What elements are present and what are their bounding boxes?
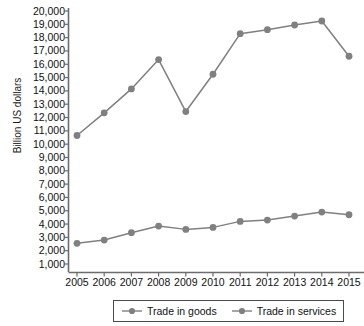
data-point[interactable] (182, 108, 189, 115)
legend-item-services[interactable]: Trade in services (231, 305, 337, 317)
series-line (77, 21, 349, 136)
legend-item-goods[interactable]: Trade in goods (121, 305, 217, 317)
data-series-group (74, 18, 353, 247)
data-point[interactable] (155, 56, 162, 63)
data-point[interactable] (237, 30, 244, 37)
data-point[interactable] (237, 218, 244, 225)
data-point[interactable] (182, 226, 189, 233)
data-point[interactable] (210, 224, 217, 231)
data-point[interactable] (128, 229, 135, 236)
data-point[interactable] (264, 26, 271, 33)
data-point[interactable] (346, 211, 353, 218)
data-point[interactable] (291, 22, 298, 29)
chart-legend: Trade in goods Trade in services (113, 300, 344, 322)
data-point[interactable] (128, 85, 135, 92)
data-point[interactable] (264, 217, 271, 224)
data-point[interactable] (318, 209, 325, 216)
legend-marker-goods-icon (121, 306, 143, 316)
data-point[interactable] (318, 18, 325, 25)
data-point[interactable] (155, 223, 162, 230)
line-chart: Billion US dollars 20,00019,00018,00017,… (0, 0, 364, 326)
legend-marker-services-icon (231, 306, 253, 316)
data-point[interactable] (101, 237, 108, 244)
data-point[interactable] (74, 240, 81, 247)
data-point[interactable] (74, 132, 81, 139)
data-point[interactable] (210, 71, 217, 78)
legend-label-services: Trade in services (257, 305, 337, 317)
data-point[interactable] (101, 109, 108, 116)
data-series (74, 18, 353, 139)
axes (65, 8, 364, 277)
x-axis-tick-label: 2015 (333, 276, 364, 288)
data-point[interactable] (291, 213, 298, 220)
data-point[interactable] (346, 53, 353, 60)
data-series (74, 209, 353, 247)
legend-label-goods: Trade in goods (147, 305, 217, 317)
